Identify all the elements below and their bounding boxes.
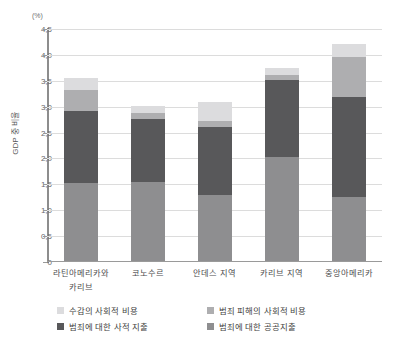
bar-segment[interactable] (332, 57, 366, 97)
legend-item[interactable]: 범죄에 대한 공공지출 (207, 320, 357, 332)
plot-area (47, 29, 382, 262)
bar-segment[interactable] (332, 197, 366, 261)
bar-segment[interactable] (131, 119, 165, 182)
legend-item[interactable]: 범죄에 대한 사적 지출 (57, 320, 207, 332)
x-axis-category-label: 안데스 지역 (193, 267, 235, 281)
x-axis-category-label: 중앙아메리카 (325, 267, 373, 281)
bar-segment[interactable] (265, 80, 299, 158)
x-axis-category-label: 코노수르 (132, 267, 164, 281)
bar-segment[interactable] (64, 78, 98, 90)
legend-label: 범죄에 대한 공공지출 (219, 320, 296, 332)
bar-segment[interactable] (265, 157, 299, 261)
legend-swatch-icon (57, 323, 64, 330)
legend-label: 범죄 피해의 사회적 비용 (219, 304, 306, 316)
axis-unit-label: (%) (32, 12, 43, 19)
legend-label: 범죄에 대한 사적 지출 (69, 320, 148, 332)
legend-label: 수감의 사회적 비용 (69, 304, 138, 316)
bar-column[interactable] (198, 102, 232, 261)
legend-item[interactable]: 범죄 피해의 사회적 비용 (207, 304, 357, 316)
legend-swatch-icon (207, 307, 214, 314)
y-axis-title: GDP 중 비율 (9, 94, 20, 174)
bar-segment[interactable] (131, 106, 165, 113)
bar-column[interactable] (64, 78, 98, 261)
bar-segment[interactable] (198, 127, 232, 195)
chart-legend: 수감의 사회적 비용범죄 피해의 사회적 비용범죄에 대한 사적 지출범죄에 대… (57, 302, 357, 334)
bar-segment[interactable] (332, 97, 366, 197)
bar-segment[interactable] (64, 90, 98, 111)
legend-item[interactable]: 수감의 사회적 비용 (57, 304, 207, 316)
bar-segment[interactable] (64, 183, 98, 261)
bar-segment[interactable] (131, 182, 165, 261)
bar-column[interactable] (131, 106, 165, 261)
y-axis-tick-mark (43, 262, 47, 263)
bar-column[interactable] (332, 44, 366, 261)
x-axis-category-label: 카리브 지역 (260, 267, 302, 281)
x-axis-category-label: 라틴아메리카와카리브 (53, 267, 109, 295)
bar-segment[interactable] (332, 44, 366, 57)
gridline (47, 29, 382, 30)
bar-segment[interactable] (64, 111, 98, 183)
bar-segment[interactable] (198, 195, 232, 261)
stacked-bar-chart: (%) GDP 중 비율 00,51,01,52,02,53,03,54,04,… (0, 0, 393, 352)
x-axis-baseline (47, 261, 382, 262)
legend-swatch-icon (57, 307, 64, 314)
legend-swatch-icon (207, 323, 214, 330)
bar-segment[interactable] (198, 102, 232, 122)
bar-column[interactable] (265, 68, 299, 261)
